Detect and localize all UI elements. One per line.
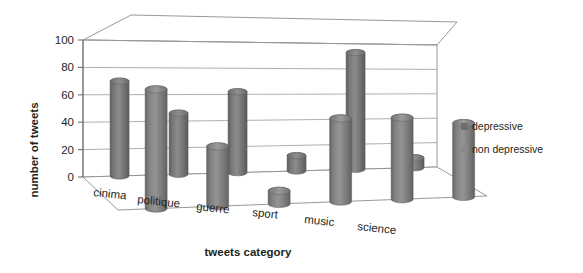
- y-axis-tick-labels: 100 80 60 40 20 0: [55, 34, 74, 183]
- bar-music-non-depressive: [391, 114, 413, 203]
- y-tick-label: 40: [61, 116, 74, 128]
- bar-politique-non-depressive: [207, 143, 229, 210]
- bar-top-cap: [145, 86, 167, 93]
- bar-top-cap: [330, 115, 352, 122]
- legend-label-non-depressive: non depressive: [472, 143, 543, 155]
- y-axis-ticks: [78, 40, 83, 177]
- bar-chart-3d: 100 80 60 40 20 0 number of tweets cinim…: [0, 0, 583, 273]
- legend-swatch-depressive: [461, 123, 468, 130]
- legend-swatch-non-depressive: [461, 146, 468, 153]
- legend-label-depressive: depressive: [472, 120, 523, 132]
- bar-top-cap: [391, 114, 413, 121]
- bar-top-cap: [287, 152, 306, 158]
- bar-politique-depressive: [169, 110, 188, 178]
- bar-body: [207, 143, 229, 210]
- bar-body: [169, 110, 188, 178]
- bar-top-cap: [110, 78, 129, 84]
- bar-guerre-non-depressive: [268, 187, 290, 207]
- x-tick-label: cinima: [93, 186, 128, 201]
- x-tick-label: guerre: [196, 200, 230, 215]
- y-tick-label: 0: [68, 171, 74, 183]
- bar-body: [228, 89, 247, 176]
- bar-guerre-depressive: [228, 89, 247, 176]
- bar-top-cap: [207, 143, 229, 150]
- bar-body: [391, 114, 413, 203]
- y-tick-label: 80: [61, 61, 74, 73]
- y-tick-label: 60: [61, 89, 74, 101]
- chart-plot-area: [78, 15, 487, 210]
- bar-top-cap: [268, 187, 290, 194]
- bar-sport-non-depressive: [330, 115, 352, 206]
- bar-top-cap: [228, 89, 247, 95]
- bar-cinima-depressive: [110, 78, 129, 179]
- y-tick-label: 20: [61, 144, 74, 156]
- x-tick-label: science: [357, 220, 397, 236]
- back-wall: [83, 40, 437, 177]
- bar-top-cap: [346, 49, 365, 55]
- bar-body: [110, 78, 129, 179]
- x-tick-label: sport: [252, 206, 279, 221]
- x-axis-title: tweets category: [205, 246, 293, 258]
- y-axis-title: number of tweets: [28, 102, 40, 197]
- bar-sport-depressive: [287, 152, 306, 174]
- bar-top-cap: [169, 110, 188, 116]
- x-tick-label: music: [304, 213, 335, 228]
- y-tick-label: 100: [55, 34, 74, 46]
- bar-body: [330, 115, 352, 206]
- chart-container: 100 80 60 40 20 0 number of tweets cinim…: [0, 0, 583, 273]
